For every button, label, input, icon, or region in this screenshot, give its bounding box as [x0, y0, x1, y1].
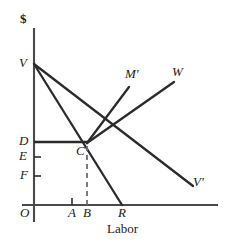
curve-label-w: W [172, 65, 183, 78]
y-axis-label: $ [20, 12, 27, 25]
y-tick-label-d: D [19, 134, 28, 147]
x-tick-label-r: R [118, 206, 126, 219]
axes-group [22, 28, 218, 222]
curve-label-m-prime: M' [125, 67, 139, 80]
tick-marks-group [34, 157, 72, 205]
origin-label: O [20, 206, 29, 219]
x-tick-label-a: A [68, 206, 76, 219]
line-c-to-mprime [87, 87, 129, 143]
y-tick-label-e: E [19, 149, 27, 162]
y-tick-label-f: F [20, 168, 28, 181]
line-c-to-w [87, 82, 174, 143]
point-label-c: C [76, 144, 85, 157]
curve-label-v-prime: V' [193, 175, 204, 188]
curves-group [34, 64, 193, 205]
y-tick-label-v: V [19, 56, 27, 69]
x-tick-label-b: B [83, 206, 91, 219]
x-axis-title: Labor [107, 222, 138, 235]
economics-diagram: $ V D E F O A B R C M' W V' Labor [0, 0, 231, 247]
line-v-to-r [34, 64, 122, 205]
diagram-canvas [0, 0, 231, 247]
